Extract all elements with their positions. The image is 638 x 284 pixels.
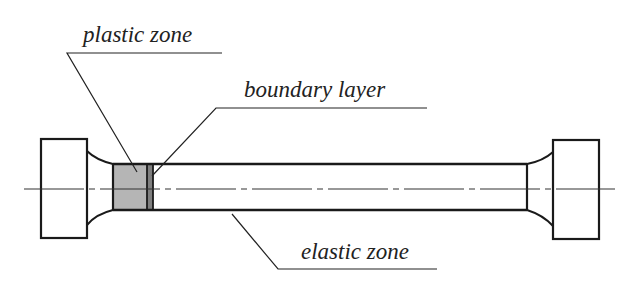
plastic-zone-region	[113, 164, 147, 210]
plastic-zone-label: plastic zone	[81, 22, 192, 47]
boundary-layer-label: boundary layer	[244, 77, 386, 102]
left-fillet	[87, 151, 113, 225]
boundary-layer-leader	[152, 108, 427, 176]
specimen-diagram: plastic zone boundary layer elastic zone	[0, 0, 638, 284]
elastic-zone-label: elastic zone	[301, 239, 409, 264]
